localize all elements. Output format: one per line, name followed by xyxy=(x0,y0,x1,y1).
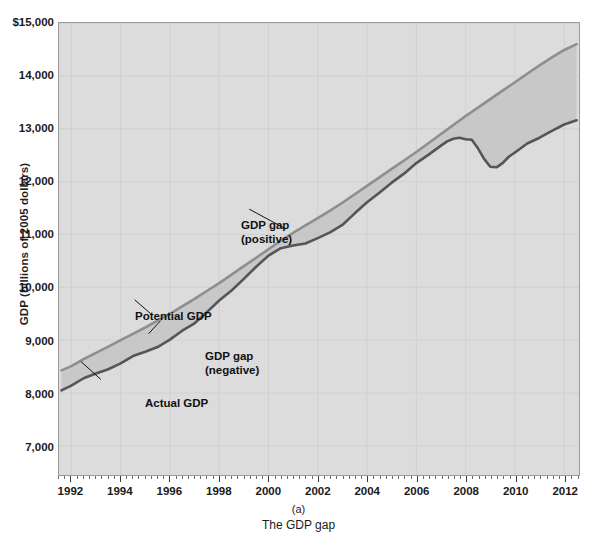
x-minor-tick xyxy=(281,476,282,479)
y-tick-label-13000: 13,000 xyxy=(2,122,54,134)
x-minor-tick xyxy=(553,476,554,479)
x-minor-tick xyxy=(547,476,548,479)
x-minor-tick xyxy=(231,476,232,479)
annotation-gdp-gap-negative-line2: (negative) xyxy=(205,364,259,378)
x-minor-tick xyxy=(262,476,263,479)
x-minor-tick xyxy=(206,476,207,479)
x-minor-tick xyxy=(380,476,381,479)
x-tick-label-1992: 1992 xyxy=(58,485,84,497)
x-minor-tick xyxy=(343,476,344,479)
x-minor-tick xyxy=(442,476,443,479)
y-tick-label-8000: 8,000 xyxy=(2,388,54,400)
x-tick-label-2006: 2006 xyxy=(404,485,430,497)
x-minor-tick xyxy=(404,476,405,479)
annotation-actual-gdp-line1: Actual GDP xyxy=(145,397,208,411)
annotation-gdp-gap-positive-line1: GDP gap xyxy=(241,219,292,233)
x-minor-tick xyxy=(151,476,152,479)
x-minor-tick xyxy=(485,476,486,479)
x-minor-tick xyxy=(392,476,393,479)
x-minor-tick xyxy=(293,476,294,479)
x-minor-tick xyxy=(89,476,90,479)
x-minor-tick xyxy=(398,476,399,479)
y-tick-label-14000: 14,000 xyxy=(2,69,54,81)
x-minor-tick xyxy=(256,476,257,479)
x-minor-tick xyxy=(237,476,238,479)
x-minor-tick xyxy=(540,476,541,479)
x-tick-label-2000: 2000 xyxy=(256,485,282,497)
x-minor-tick xyxy=(200,476,201,479)
x-minor-tick xyxy=(423,476,424,479)
x-major-tick xyxy=(367,476,368,482)
gdp-gap-figure: GDP (billions of 2005 dollars) $15,00014… xyxy=(0,0,597,541)
annotation-potential-gdp-line1: Potential GDP xyxy=(135,310,212,324)
x-minor-tick xyxy=(578,476,579,479)
x-minor-tick xyxy=(448,476,449,479)
x-minor-tick xyxy=(101,476,102,479)
x-axis-tick-labels: 1992199419961998200020022004200620082010… xyxy=(58,485,580,503)
x-minor-tick xyxy=(479,476,480,479)
x-tick-label-1998: 1998 xyxy=(206,485,232,497)
x-minor-tick xyxy=(132,476,133,479)
x-tick-label-1996: 1996 xyxy=(157,485,183,497)
x-minor-tick xyxy=(145,476,146,479)
x-minor-tick xyxy=(534,476,535,479)
x-minor-tick xyxy=(559,476,560,479)
x-minor-tick xyxy=(355,476,356,479)
plot-area: GDP gap (positive) Potential GDP GDP gap… xyxy=(58,22,580,476)
x-minor-tick xyxy=(182,476,183,479)
x-minor-tick xyxy=(77,476,78,479)
x-tick-label-2004: 2004 xyxy=(354,485,380,497)
x-minor-tick xyxy=(176,476,177,479)
x-minor-tick xyxy=(429,476,430,479)
annotation-actual-gdp: Actual GDP xyxy=(145,397,208,411)
x-major-tick xyxy=(268,476,269,482)
x-minor-tick xyxy=(126,476,127,479)
x-minor-tick xyxy=(299,476,300,479)
x-minor-tick xyxy=(95,476,96,479)
x-minor-tick xyxy=(108,476,109,479)
annotation-gdp-gap-negative: GDP gap (negative) xyxy=(205,350,259,377)
x-major-tick xyxy=(70,476,71,482)
x-minor-tick xyxy=(305,476,306,479)
annotation-gdp-gap-positive-line2: (positive) xyxy=(241,233,292,247)
y-tick-label-11000: 11,000 xyxy=(2,228,54,240)
x-minor-tick xyxy=(361,476,362,479)
x-minor-tick xyxy=(571,476,572,479)
x-minor-tick xyxy=(330,476,331,479)
x-minor-tick xyxy=(472,476,473,479)
x-tick-label-2008: 2008 xyxy=(453,485,479,497)
figure-panel-label: (a) xyxy=(0,503,597,515)
x-minor-tick xyxy=(349,476,350,479)
x-major-tick xyxy=(219,476,220,482)
x-minor-tick xyxy=(435,476,436,479)
x-minor-tick xyxy=(244,476,245,479)
x-minor-tick xyxy=(510,476,511,479)
x-minor-tick xyxy=(188,476,189,479)
x-minor-tick xyxy=(225,476,226,479)
x-tick-label-2012: 2012 xyxy=(552,485,578,497)
y-tick-label-7000: 7,000 xyxy=(2,441,54,453)
x-minor-tick xyxy=(58,476,59,479)
x-minor-tick xyxy=(373,476,374,479)
y-tick-label-9000: 9,000 xyxy=(2,335,54,347)
x-tick-label-2002: 2002 xyxy=(305,485,331,497)
x-major-tick xyxy=(466,476,467,482)
annotation-gdp-gap-negative-line1: GDP gap xyxy=(205,350,259,364)
x-minor-tick xyxy=(275,476,276,479)
y-tick-label-10000: 10,000 xyxy=(2,281,54,293)
annotation-potential-gdp: Potential GDP xyxy=(135,310,212,324)
y-tick-label-12000: 12,000 xyxy=(2,175,54,187)
x-minor-tick xyxy=(163,476,164,479)
x-minor-tick xyxy=(491,476,492,479)
x-minor-tick xyxy=(454,476,455,479)
x-major-tick xyxy=(318,476,319,482)
x-minor-tick xyxy=(312,476,313,479)
x-minor-tick xyxy=(522,476,523,479)
x-minor-tick xyxy=(460,476,461,479)
x-minor-tick xyxy=(336,476,337,479)
annotation-gdp-gap-positive: GDP gap (positive) xyxy=(241,219,292,246)
x-minor-tick xyxy=(497,476,498,479)
x-minor-tick xyxy=(503,476,504,479)
x-minor-tick xyxy=(157,476,158,479)
x-tick-label-2010: 2010 xyxy=(503,485,529,497)
